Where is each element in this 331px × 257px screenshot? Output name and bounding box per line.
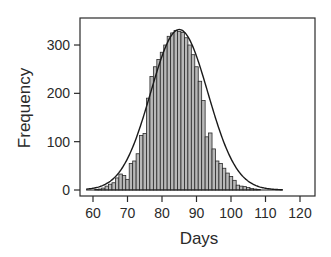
x-tick-label: 80	[154, 205, 170, 221]
x-tick-label: 60	[85, 205, 101, 221]
y-tick-label: 200	[47, 85, 71, 101]
x-axis-ticks: 60708090100110120	[85, 196, 312, 221]
histogram-bar	[112, 183, 115, 190]
histogram-bar	[119, 174, 122, 190]
x-tick-label: 100	[219, 205, 243, 221]
histogram-bar	[226, 173, 229, 190]
histogram-bar	[233, 180, 236, 190]
histogram-bar	[184, 38, 187, 190]
x-tick-label: 70	[120, 205, 136, 221]
histogram-bar	[153, 67, 156, 190]
y-tick-label: 300	[47, 37, 71, 53]
histogram-bar	[115, 178, 118, 190]
x-tick-label: 110	[254, 205, 277, 221]
histogram-bar	[164, 45, 167, 190]
histogram-bar	[171, 33, 174, 190]
histogram-bar	[222, 168, 225, 190]
histogram-bar	[188, 45, 191, 190]
histogram-bar	[140, 135, 143, 190]
histogram-bar	[181, 32, 184, 190]
histogram-bar	[160, 52, 163, 190]
histogram-bar	[215, 161, 218, 190]
histogram-bar	[209, 133, 212, 190]
histogram-bar	[202, 101, 205, 190]
histogram-bar	[205, 137, 208, 190]
histogram-bar	[212, 149, 215, 190]
histogram-bar	[143, 133, 146, 190]
histogram-bar	[133, 161, 136, 190]
histogram-bar	[136, 154, 139, 190]
x-axis-title: Days	[180, 229, 219, 248]
histogram-chart: 60708090100110120 0100200300 Days Freque…	[0, 0, 331, 257]
histogram-bar	[236, 185, 239, 190]
x-tick-label: 90	[189, 205, 205, 221]
histogram-bar	[195, 67, 198, 190]
histogram-bar	[229, 176, 232, 190]
histogram-bar	[167, 36, 170, 190]
histogram-bar	[178, 31, 181, 190]
y-axis-ticks: 0100200300	[47, 37, 80, 198]
histogram-bar	[129, 163, 132, 190]
x-tick-label: 120	[288, 205, 312, 221]
y-axis-title: Frequency	[15, 67, 34, 148]
histogram-bar	[174, 31, 177, 190]
histogram-bar	[157, 60, 160, 190]
histogram-bar	[219, 163, 222, 190]
histogram-bar	[191, 55, 194, 190]
y-tick-label: 0	[62, 182, 70, 198]
histogram-bar	[198, 81, 201, 190]
histogram-bar	[109, 184, 112, 190]
y-tick-label: 100	[47, 134, 71, 150]
histogram-bar	[122, 176, 125, 191]
histogram-bar	[126, 179, 129, 190]
histogram-bar	[146, 98, 149, 190]
